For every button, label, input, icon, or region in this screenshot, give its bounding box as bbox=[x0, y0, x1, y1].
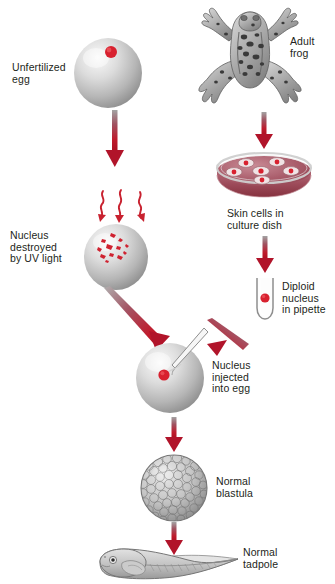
culture-dish bbox=[214, 153, 314, 205]
blastula bbox=[139, 452, 209, 524]
egg-nucleus-destroyed bbox=[82, 222, 150, 292]
egg-nucleus-dot bbox=[105, 46, 117, 58]
arrow-frog-to-dish bbox=[253, 112, 277, 150]
injected-nucleus-dot bbox=[158, 369, 169, 380]
arrow-egg-to-blastula bbox=[163, 417, 187, 453]
arrow-pipette-to-egg bbox=[205, 318, 267, 362]
label-unfertilized-egg: Unfertilized egg bbox=[12, 62, 74, 85]
label-normal-blastula: Normal blastula bbox=[216, 476, 274, 499]
uv-light-rays bbox=[96, 190, 148, 224]
label-diploid-nucleus: Diploid nucleus in pipette bbox=[282, 281, 335, 316]
adult-frog bbox=[196, 4, 302, 112]
label-normal-tadpole: Normal tadpole bbox=[243, 547, 299, 570]
unfertilized-egg bbox=[72, 36, 144, 110]
label-skin-cells: Skin cells in culture dish bbox=[227, 208, 307, 231]
nuclear-transfer-diagram: Unfertilized egg bbox=[0, 0, 335, 584]
label-adult-frog: Adult frog bbox=[290, 36, 334, 59]
egg-injected bbox=[134, 338, 208, 416]
tadpole bbox=[88, 548, 244, 584]
pipette-nucleus-dot bbox=[260, 293, 269, 302]
arrow-egg-to-uv bbox=[101, 110, 129, 168]
pipette bbox=[252, 278, 278, 322]
label-nucleus-injected: Nucleus injected into egg bbox=[212, 360, 276, 395]
label-nucleus-destroyed: Nucleus destroyed by UV light bbox=[10, 230, 80, 265]
arrow-dish-to-pipette bbox=[254, 236, 278, 274]
